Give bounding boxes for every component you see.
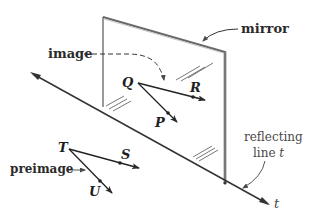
point-r-label: R xyxy=(189,80,201,95)
reflection-diagram: mirror image preimage reflecting line t … xyxy=(0,0,309,214)
line-t-label: t xyxy=(274,196,280,211)
mirror-callout-arrow xyxy=(203,29,238,41)
preimage-label: preimage xyxy=(10,162,74,176)
reflecting-line-callout-arrow xyxy=(243,161,265,188)
reflecting-line-t xyxy=(30,72,270,205)
point-q-label: Q xyxy=(122,75,134,90)
point-u-dot xyxy=(98,179,102,183)
point-u-label: U xyxy=(89,184,101,199)
point-r-dot xyxy=(191,95,195,99)
mirror-label: mirror xyxy=(241,21,289,36)
point-p-dot xyxy=(166,111,170,115)
reflecting-line-label-1: reflecting xyxy=(244,130,303,144)
point-s-label: S xyxy=(121,147,130,162)
image-label: image xyxy=(48,46,92,61)
point-t-label: T xyxy=(58,140,69,155)
point-p-label: P xyxy=(154,115,166,130)
reflecting-line-label-2: line t xyxy=(253,146,284,160)
